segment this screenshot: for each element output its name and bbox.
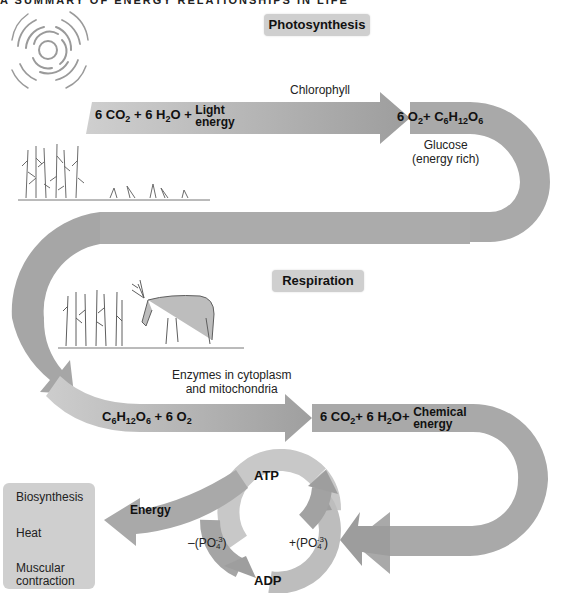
bind-superscript: -3 xyxy=(317,535,324,544)
energy-output-label: Energy xyxy=(130,503,171,517)
glucose-note: Glucose (energy rich) xyxy=(412,138,479,166)
glucose-label: Glucose xyxy=(412,138,479,152)
photosynthesis-products: 6 O2+ C6H12O6 xyxy=(397,109,483,126)
enzymes-line2: and mitochondria xyxy=(172,382,291,396)
h-subscript: 12 xyxy=(458,116,468,126)
respiration-label: Respiration xyxy=(272,270,364,292)
co2-term: 6 CO xyxy=(320,409,350,424)
h2o-o: O + xyxy=(170,107,195,122)
bind-suffix: ) xyxy=(324,536,328,550)
enzymes-label: Enzymes in cytoplasm and mitochondria xyxy=(172,368,291,396)
use-contraction: contraction xyxy=(16,575,75,588)
adp-label: ADP xyxy=(254,573,281,588)
chlorophyll-label: Chlorophyll xyxy=(290,83,350,97)
use-biosynthesis: Biosynthesis xyxy=(16,491,83,504)
glucose-h: H xyxy=(449,109,458,124)
glucose-c: + C xyxy=(423,109,444,124)
energy-uses-box: Biosynthesis Heat Muscular contraction xyxy=(3,483,95,589)
chemical-energy-label: Chemicalenergy xyxy=(413,406,466,430)
photosynthesis-label: Photosynthesis xyxy=(264,14,370,36)
energy-word: energy xyxy=(413,417,452,431)
h2o-term: + 6 H xyxy=(130,107,165,122)
use-heat: Heat xyxy=(16,527,41,540)
bind-prefix: +(PO xyxy=(289,536,317,550)
enzymes-line1: Enzymes in cytoplasm xyxy=(172,368,291,382)
respiration-products: 6 CO2+ 6 H2O+ Chemicalenergy xyxy=(320,406,467,430)
o2-subscript: 2 xyxy=(187,416,192,426)
glucose-c: C xyxy=(102,409,111,424)
glucose-h: H xyxy=(116,409,125,424)
atp-label: ATP xyxy=(254,468,279,483)
photosynthesis-reactants: 6 CO2 + 6 H2O + Lightenergy xyxy=(95,104,235,128)
respiration-reactants: C6H12O6 + 6 O2 xyxy=(102,409,192,426)
energy-rich-label: (energy rich) xyxy=(412,152,479,166)
corn-plants-illustration xyxy=(18,144,210,200)
h2o-o: O+ xyxy=(392,409,410,424)
o2-term: 6 O xyxy=(397,109,418,124)
atp-adp-cycle xyxy=(104,460,390,591)
release-superscript: -3 xyxy=(215,535,222,544)
glucose-o: O xyxy=(136,409,146,424)
energy-word: energy xyxy=(195,115,234,129)
h2o-term: + 6 H xyxy=(355,409,386,424)
phosphate-release-label: –(PO4-3) xyxy=(188,535,227,551)
h-subscript: 12 xyxy=(126,416,136,426)
release-prefix: –(PO xyxy=(188,536,216,550)
light-energy-label: Lightenergy xyxy=(195,104,234,128)
co2-term: 6 CO xyxy=(95,107,125,122)
o-subscript: 6 xyxy=(478,116,483,126)
glucose-o: O xyxy=(468,109,478,124)
phosphate-bind-label: +(PO4-3) xyxy=(289,535,328,551)
o2-term: + 6 O xyxy=(151,409,187,424)
figure-header: A SUMMARY OF ENERGY RELATIONSHIPS IN LIF… xyxy=(0,0,349,6)
release-suffix: ) xyxy=(223,536,227,550)
sun-icon xyxy=(12,12,88,88)
grazing-deer-illustration xyxy=(58,280,244,348)
